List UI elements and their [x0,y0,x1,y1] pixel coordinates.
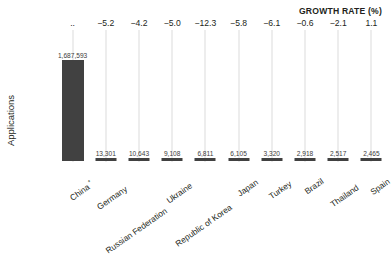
chart-column: −5.09,108 [156,0,189,162]
bar-value-label: 2,918 [288,150,321,157]
gridline [238,30,239,162]
chart-column: −0.62,918 [288,0,321,162]
chart-column: −12.36,811 [189,0,222,162]
growth-rate-value: −5.2 [89,18,122,28]
category-label: Turkey [267,179,293,202]
category-label-text: Turkey [267,179,293,202]
bar [361,158,382,161]
bar [228,158,249,161]
chart-column: −4.210,643 [122,0,155,162]
category-label-text: Brazil [303,176,326,196]
bar-value-label: 3,320 [255,150,288,157]
category-label-text: Japan [235,177,259,198]
y-axis-label-text: Applications [6,94,17,145]
category-label: China * [67,179,94,203]
growth-rate-value: .. [56,18,89,28]
category-label-text: Thailand [329,182,361,209]
bar-value-label: 2,465 [355,150,388,157]
bar [162,158,183,161]
chart-column: 1.12,465 [355,0,388,162]
growth-rate-value: −12.3 [189,18,222,28]
gridline [304,30,305,162]
bar-value-label: 9,108 [156,150,189,157]
bar [195,158,216,161]
plot-area: ..1,687,593−5.213,301−4.210,643−5.09,108… [56,0,388,162]
growth-rate-value: −6.1 [255,18,288,28]
category-label-text: Spain [369,176,392,196]
growth-rate-value: −5.8 [222,18,255,28]
bar [128,158,149,161]
gridline [172,30,173,162]
category-label: Thailand [329,182,361,209]
gridline [205,30,206,162]
category-label: Ukraine [165,181,194,206]
chart-column: −5.86,105 [222,0,255,162]
gridline [338,30,339,162]
category-label: Japan [235,177,259,198]
growth-rate-value: −2.1 [322,18,355,28]
gridline [371,30,372,162]
bar-value-label: 6,811 [189,150,222,157]
chart-column: −2.12,517 [322,0,355,162]
category-label-text: Germany [95,184,129,212]
category-label: Spain [369,176,392,196]
gridline [138,30,139,162]
bar [261,158,282,161]
bar-value-label: 1,687,593 [56,52,89,59]
category-label-text: Russian Federation [104,206,169,256]
bar-value-label: 13,301 [89,150,122,157]
bar-value-label: 10,643 [122,150,155,157]
bar [294,158,315,161]
gridline [271,30,272,162]
category-label: Brazil [303,176,326,196]
category-label-text: Republic of Korea [174,202,234,248]
chart-column: −5.213,301 [89,0,122,162]
category-axis: China *GermanyRussian FederationUkraineR… [56,162,388,264]
bar [62,60,84,161]
category-label: Republic of Korea [174,202,234,248]
chart-column: ..1,687,593 [56,0,89,162]
category-label: Russian Federation [104,206,169,256]
bar [328,158,349,161]
y-axis-label: Applications [2,55,20,185]
bar-value-label: 2,517 [322,150,355,157]
chart-column: −6.13,320 [255,0,288,162]
growth-rate-value: −5.0 [156,18,189,28]
growth-rate-value: 1.1 [355,18,388,28]
growth-rate-value: −0.6 [288,18,321,28]
category-label: Germany [95,184,129,212]
bar-value-label: 6,105 [222,150,255,157]
gridline [105,30,106,162]
bar [95,158,116,161]
category-label-text: Ukraine [165,181,194,206]
growth-rate-value: −4.2 [122,18,155,28]
